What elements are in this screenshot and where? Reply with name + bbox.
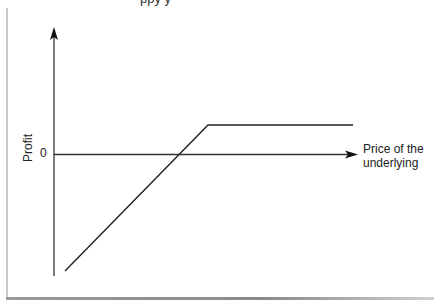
x-axis-label: Price of the underlying bbox=[363, 142, 439, 170]
x-axis-label-line1: Price of the bbox=[363, 142, 439, 156]
zero-tick-label: 0 bbox=[40, 146, 47, 160]
payoff-line bbox=[65, 125, 353, 271]
y-axis-label: Profit bbox=[21, 128, 35, 168]
x-axis-label-line2: underlying bbox=[363, 156, 439, 170]
